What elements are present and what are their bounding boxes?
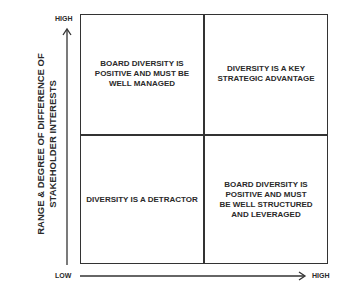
quadrant-top-right: DIVERSITY IS A KEY STRATEGIC ADVANTAGE (204, 14, 328, 134)
quadrant-text: DIVERSITY IS A DETRACTOR (86, 195, 198, 205)
quadrant-text: POSITIVE AND MUST BE (95, 69, 189, 79)
quadrant-bottom-left: DIVERSITY IS A DETRACTOR (80, 135, 204, 264)
quadrant-text: STRATEGIC ADVANTAGE (217, 74, 314, 84)
quadrant-text: BE WELL STRUCTURED (219, 200, 312, 210)
quadrant-text: BOARD DIVERSITY IS (95, 59, 189, 69)
quadrant-text: AND LEVERAGED (219, 210, 312, 220)
x-axis-low-label: LOW (55, 272, 71, 279)
quadrant-text: POSITIVE AND MUST (219, 190, 312, 200)
quadrant-text: DIVERSITY IS A KEY (217, 64, 314, 74)
x-axis-high-label: HIGH (312, 272, 330, 279)
quadrant-text: WELL MANAGED (95, 79, 189, 89)
quadrant-top-left: BOARD DIVERSITY IS POSITIVE AND MUST BE … (80, 14, 204, 134)
quadrant-bottom-right: BOARD DIVERSITY IS POSITIVE AND MUST BE … (204, 135, 328, 264)
quadrant-text: BOARD DIVERSITY IS (219, 180, 312, 190)
